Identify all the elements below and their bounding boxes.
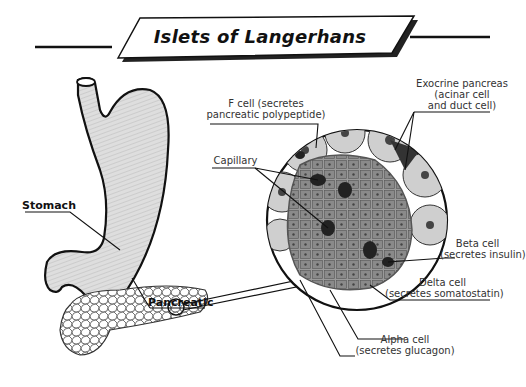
stomach-illustration bbox=[45, 78, 169, 302]
label-beta-line2: (secretes insulin) bbox=[440, 249, 515, 260]
label-alpha-line2: (secretes glucagon) bbox=[355, 345, 455, 356]
label-exocrine: Exocrine pancreas (acinar cell and duct … bbox=[412, 78, 512, 111]
page-title: Islets of Langerhans bbox=[150, 26, 370, 47]
label-f-cell: F cell (secretes pancreatic polypeptide) bbox=[206, 98, 326, 120]
label-beta-line1: Beta cell bbox=[440, 238, 515, 249]
label-exocrine-line1: Exocrine pancreas bbox=[412, 78, 512, 89]
label-exocrine-line3: and duct cell) bbox=[412, 100, 512, 111]
label-capillary: Capillary bbox=[213, 155, 258, 166]
label-pancreatic: Pancreatic bbox=[148, 296, 213, 309]
label-delta-line1: Delta cell bbox=[385, 277, 500, 288]
label-exocrine-line2: (acinar cell bbox=[412, 89, 512, 100]
label-f-cell-line1: F cell (secretes bbox=[206, 98, 326, 109]
label-f-cell-line2: pancreatic polypeptide) bbox=[206, 109, 326, 120]
label-beta-cell: Beta cell (secretes insulin) bbox=[440, 238, 515, 260]
label-alpha-line1: Alpha cell bbox=[355, 334, 455, 345]
label-alpha-cell: Alpha cell (secretes glucagon) bbox=[355, 334, 455, 356]
label-stomach: Stomach bbox=[22, 199, 76, 212]
label-delta-cell: Delta cell (secretes somatostatin) bbox=[385, 277, 500, 299]
label-delta-line2: (secretes somatostatin) bbox=[385, 288, 500, 299]
